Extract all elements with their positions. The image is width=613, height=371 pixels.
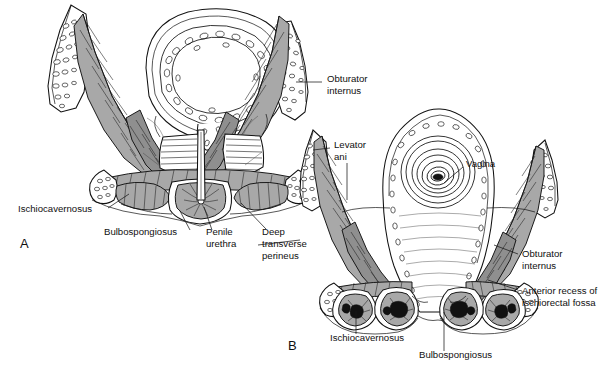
panel-a-penile-urethra <box>197 130 205 200</box>
label-a-bulbospongiosus: Bulbospongiosus <box>104 226 177 237</box>
panel-b-right-ischiocavernosus <box>482 290 526 331</box>
label-b-vagina: Vagina <box>466 158 496 169</box>
panel-a-letter: A <box>20 236 29 251</box>
label-b-ischiocavernosus: Ischiocavernosus <box>330 332 404 343</box>
panel-b-left-ischiocavernosus <box>333 290 377 331</box>
panel-b-vaginal-lumen <box>433 174 443 180</box>
panel-b-right-bulbospongiosus <box>440 288 484 331</box>
label-a-penile-urethra: Penile urethra <box>206 226 237 249</box>
panel-b-left-bulbospongiosus <box>375 288 419 331</box>
anatomical-illustration: A <box>0 0 613 371</box>
label-a-ischiocavernosus: Ischiocavernosus <box>18 203 92 214</box>
panel-b-letter: B <box>288 338 297 353</box>
anatomy-figure: A <box>0 0 613 371</box>
label-b-bulbospongiosus: Bulbospongiosus <box>419 349 492 360</box>
label-b-anterior-recess: Anterior recess of ischiorectal fossa <box>522 285 600 308</box>
